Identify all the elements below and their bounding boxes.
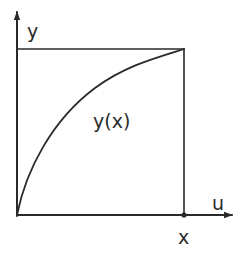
curve-y-of-x bbox=[17, 49, 184, 215]
x-marker-label: x bbox=[178, 226, 189, 248]
x-point-marker bbox=[181, 212, 186, 217]
function-diagram: y y(x) u x bbox=[0, 0, 248, 255]
y-axis-label: y bbox=[27, 20, 38, 42]
curve-label: y(x) bbox=[93, 110, 130, 132]
u-axis-label: u bbox=[212, 192, 224, 214]
